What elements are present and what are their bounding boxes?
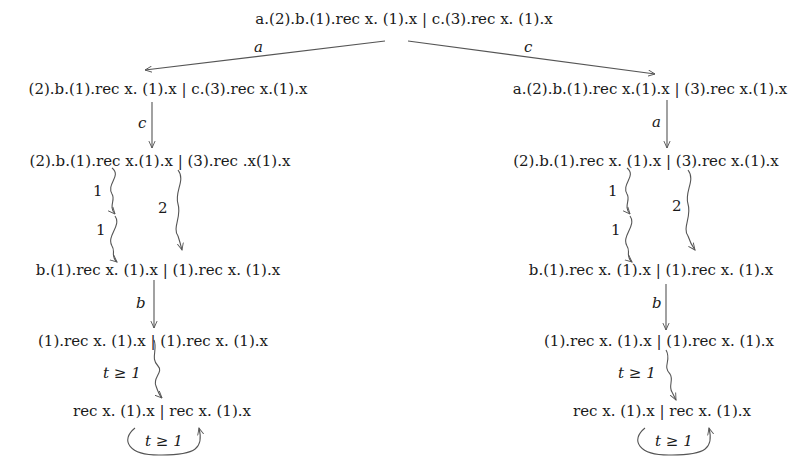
edge-root-to-left	[145, 41, 385, 70]
edge-label-right-delay-1b: 1	[611, 221, 621, 239]
edge-label-root-right: c	[524, 38, 532, 56]
right-state-1: a.(2).b.(1).rec x.(1).x | (3).rec x.(1).…	[513, 80, 788, 98]
edge-label-left-delay-1a: 1	[93, 182, 103, 200]
loop-label-left: t ≥ 1	[145, 432, 183, 450]
edge-right-delay-t	[666, 350, 676, 400]
edge-label-right-delay-2: 2	[672, 197, 682, 215]
root-state: a.(2).b.(1).rec x. (1).x | c.(3).rec x. …	[255, 10, 552, 28]
edge-label-left-delay-1b: 1	[96, 221, 106, 239]
left-state-4: (1).rec x. (1).x | (1).rec x. (1).x	[38, 332, 268, 350]
edge-label-root-left: a	[254, 38, 263, 56]
edge-right-delay-2	[686, 170, 695, 250]
edge-label-left-delay-2: 2	[158, 199, 168, 217]
right-state-3: b.(1).rec x. (1).x | (1).rec x. (1).x	[529, 261, 773, 279]
edge-right-delay-1b	[626, 216, 632, 262]
left-state-3: b.(1).rec x. (1).x | (1).rec x. (1).x	[36, 261, 280, 279]
edge-label-left-delay-t: t ≥ 1	[103, 364, 141, 382]
left-state-1: (2).b.(1).rec x. (1).x | c.(3).rec x.(1)…	[29, 80, 308, 98]
edge-label-left-c: c	[138, 114, 146, 132]
loop-label-right: t ≥ 1	[655, 432, 693, 450]
edge-left-delay-1a	[111, 168, 116, 214]
edge-label-right-a: a	[652, 113, 661, 131]
edge-label-right-delay-t: t ≥ 1	[618, 364, 656, 382]
edge-left-delay-1b	[111, 216, 117, 262]
right-state-5: rec x. (1).x | rec x. (1).x	[573, 402, 751, 420]
edge-label-left-b: b	[136, 294, 146, 312]
right-state-2: (2).b.(1).rec x. (1).x | (3).rec x.(1).x	[513, 152, 779, 170]
edge-right-delay-1a	[626, 168, 631, 214]
transition-diagram-edges	[0, 0, 809, 470]
left-state-2: (2).b.(1).rec x.(1).x | (3).rec .x(1).x	[30, 152, 291, 170]
edge-label-right-delay-1a: 1	[608, 182, 618, 200]
edge-label-right-b: b	[652, 294, 662, 312]
edge-left-delay-2	[176, 170, 182, 250]
right-state-4: (1).rec x. (1).x | (1).rec x. (1).x	[544, 332, 774, 350]
left-state-5: rec x. (1).x | rec x. (1).x	[73, 402, 251, 420]
